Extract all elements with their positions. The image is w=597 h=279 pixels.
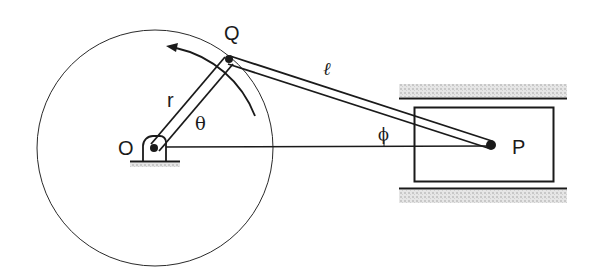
rotation-arc — [176, 48, 255, 116]
label-P: P — [512, 136, 525, 158]
label-O: O — [118, 137, 134, 159]
arrowhead-icon — [166, 43, 178, 52]
upper-guide-hatch — [399, 84, 567, 97]
joint-Q — [225, 55, 233, 63]
connecting-rod — [228, 56, 492, 148]
label-theta: θ — [195, 113, 206, 134]
label-Q: Q — [224, 22, 240, 44]
label-phi: ϕ — [378, 125, 389, 144]
pivot-O-joint — [150, 144, 158, 152]
slider-block — [415, 108, 554, 182]
lower-guide-hatch — [399, 190, 567, 203]
cylinder-guides — [399, 84, 567, 203]
label-ell: ℓ — [323, 58, 331, 79]
joint-P — [486, 140, 496, 150]
rotation-arrow — [166, 43, 255, 116]
slider-crank-diagram: O Q P r θ ℓ ϕ — [0, 0, 597, 279]
reference-line — [160, 146, 491, 147]
label-r: r — [167, 89, 174, 111]
